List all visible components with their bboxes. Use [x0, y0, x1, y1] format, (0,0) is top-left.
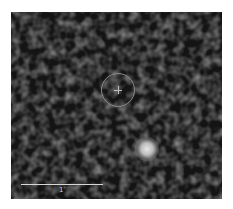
scale-bar: [21, 184, 103, 185]
bright-source: [135, 137, 159, 161]
astronomical-image: 1′: [11, 12, 222, 199]
crosshair-vertical: [118, 86, 119, 94]
scale-bar-label: 1′: [59, 186, 65, 194]
